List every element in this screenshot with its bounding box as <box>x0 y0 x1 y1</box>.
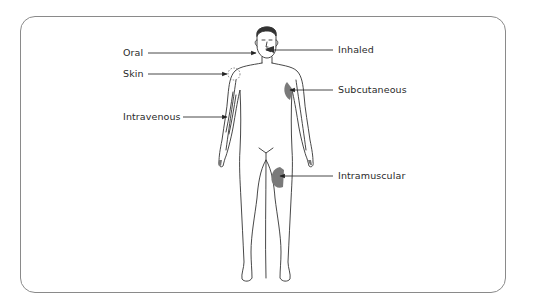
skin-site-marker <box>228 68 240 80</box>
label-inhaled: Inhaled <box>338 45 374 55</box>
label-subcutaneous: Subcutaneous <box>338 85 407 95</box>
human-body-diagram <box>0 0 534 305</box>
label-oral: Oral <box>123 48 143 58</box>
label-skin: Skin <box>123 69 144 79</box>
label-intravenous: Intravenous <box>123 112 181 122</box>
body-outline <box>219 27 313 281</box>
label-intramuscular: Intramuscular <box>338 171 405 181</box>
hair <box>257 27 276 36</box>
